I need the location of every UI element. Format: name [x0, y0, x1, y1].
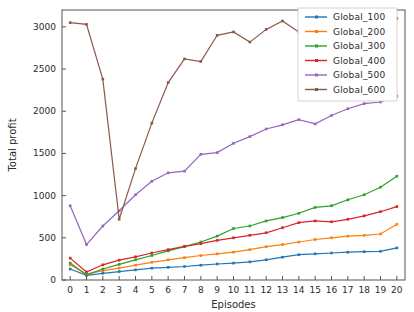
x-tick-label: 18: [358, 285, 370, 295]
chart-container: 0500100015002000250030000123456789101112…: [0, 0, 414, 312]
x-tick-label: 5: [149, 285, 155, 295]
x-tick-label: 1: [84, 285, 90, 295]
x-tick-label: 9: [214, 285, 220, 295]
x-tick-label: 8: [198, 285, 204, 295]
y-tick-label: 0: [50, 275, 56, 285]
x-tick-label: 6: [165, 285, 171, 295]
x-tick-label: 10: [228, 285, 240, 295]
series-global_500: [69, 95, 398, 246]
x-tick-label: 19: [375, 285, 387, 295]
x-tick-label: 11: [244, 285, 255, 295]
y-tick-label: 1500: [33, 148, 56, 158]
x-tick-label: 0: [67, 285, 73, 295]
y-tick-label: 2000: [33, 106, 56, 116]
legend-label: Global_100: [333, 12, 385, 22]
x-tick-label: 16: [326, 285, 338, 295]
x-tick-label: 20: [391, 285, 403, 295]
series-global_200: [69, 223, 398, 275]
chart-legend[interactable]: Global_100Global_200Global_300Global_400…: [298, 8, 397, 101]
x-tick-label: 12: [260, 285, 271, 295]
legend-label: Global_600: [333, 85, 385, 95]
total-profit-line-chart: 0500100015002000250030000123456789101112…: [0, 0, 414, 312]
x-tick-label: 15: [309, 285, 320, 295]
legend-label: Global_400: [333, 56, 385, 66]
y-axis-title: Total profit: [7, 118, 18, 172]
y-tick-label: 500: [39, 233, 56, 243]
legend-label: Global_300: [333, 41, 385, 51]
x-tick-label: 7: [182, 285, 188, 295]
y-tick-label: 3000: [33, 22, 56, 32]
x-axis-title: Episodes: [211, 299, 255, 310]
legend-label: Global_500: [333, 70, 385, 80]
y-tick-label: 1000: [33, 191, 56, 201]
legend-label: Global_200: [333, 27, 385, 37]
y-tick-label: 2500: [33, 64, 56, 74]
x-tick-label: 4: [133, 285, 139, 295]
x-tick-label: 3: [116, 285, 122, 295]
x-tick-label: 17: [342, 285, 353, 295]
x-tick-label: 13: [277, 285, 288, 295]
x-tick-label: 14: [293, 285, 305, 295]
x-tick-label: 2: [100, 285, 106, 295]
